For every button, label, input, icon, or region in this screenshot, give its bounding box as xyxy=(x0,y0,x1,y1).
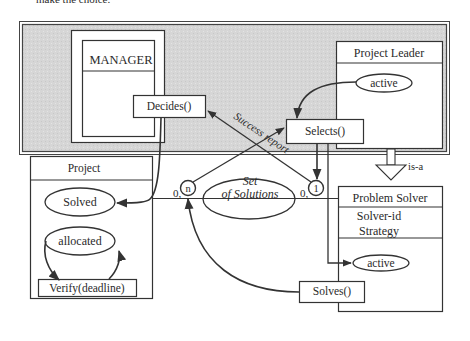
decides-operation-label: Decides() xyxy=(147,100,192,113)
project-entity[interactable]: Project Solved allocated Verify(deadline… xyxy=(31,157,153,299)
project-leader-title: Project Leader xyxy=(354,46,424,60)
set-of-solutions-relationship[interactable]: Set of Solutions xyxy=(203,174,295,219)
solver-attr-strategy: Strategy xyxy=(359,224,399,238)
relationship-label-line1: Set xyxy=(243,174,258,188)
selects-operation-label: Selects() xyxy=(305,125,345,138)
solver-attr-id: Solver-id xyxy=(357,209,401,223)
full-diagram: make the choice. MANAGER Project Leader … xyxy=(0,0,470,341)
solver-state-active-label: active xyxy=(367,257,394,269)
problem-solver-title: Problem Solver xyxy=(353,191,428,205)
project-title: Project xyxy=(68,162,101,175)
cardinality-right: 0, 1 xyxy=(300,181,324,200)
solves-operation-label: Solves() xyxy=(313,285,352,298)
project-state-allocated-label: allocated xyxy=(58,234,101,248)
cardinality-left: 0, n xyxy=(173,181,196,200)
svg-text:0,: 0, xyxy=(300,187,309,199)
caption-fragment: make the choice. xyxy=(36,0,110,5)
svg-text:n: n xyxy=(185,183,191,194)
leader-state-active-label: active xyxy=(370,77,397,89)
manager-entity[interactable]: MANAGER xyxy=(72,31,165,143)
svg-text:1: 1 xyxy=(313,183,318,194)
verify-operation-label: Verify(deadline) xyxy=(49,282,125,295)
is-a-label: is-a xyxy=(408,161,424,172)
manager-title: MANAGER xyxy=(89,53,153,67)
relationship-label-line2: of Solutions xyxy=(221,187,278,201)
project-state-solved-label: Solved xyxy=(63,195,96,209)
